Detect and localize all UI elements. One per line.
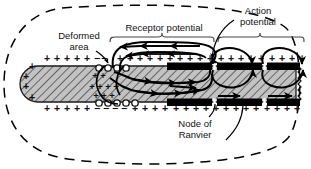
label-deformed-area-line1: Deformed [58, 30, 100, 41]
axon-body [20, 66, 296, 102]
label-receptor-potential: Receptor potential [118, 23, 210, 34]
svg-text:+: + [193, 102, 199, 114]
svg-text:+: + [74, 52, 80, 64]
svg-text:+: + [100, 70, 106, 81]
svg-text:+: + [44, 102, 50, 114]
svg-text:+: + [264, 102, 270, 114]
svg-text:+: + [74, 102, 80, 114]
svg-text:+: + [44, 52, 50, 64]
figure-canvas: +++ ++ −− +++ +++ +++ + +++ ++ +++ + +++… [0, 0, 311, 169]
svg-text:+: + [228, 52, 234, 64]
svg-text:+: + [64, 102, 70, 114]
label-action-potential: Action potential [232, 6, 284, 27]
svg-text:+: + [183, 102, 189, 114]
svg-text:+: + [109, 90, 115, 101]
label-node-of-ranvier: Node of Ranvier [168, 119, 222, 140]
label-node-of-ranvier-line1: Node of [178, 118, 211, 129]
svg-text:+: + [213, 102, 219, 114]
svg-text:+: + [284, 102, 290, 114]
svg-text:+: + [84, 102, 90, 114]
bracket-action-potential [218, 33, 304, 42]
label-node-of-ranvier-line2: Ranvier [179, 129, 212, 140]
svg-text:+: + [289, 52, 295, 64]
svg-text:+: + [223, 102, 229, 114]
svg-text:+: + [243, 102, 249, 114]
svg-text:+: + [274, 102, 280, 114]
svg-text:+: + [294, 102, 300, 114]
svg-text:+: + [203, 102, 209, 114]
svg-text:+: + [54, 52, 60, 64]
svg-text:+: + [29, 60, 35, 72]
label-action-potential-line2: potential [240, 16, 276, 27]
label-deformed-area: Deformed area [51, 31, 107, 52]
svg-text:+: + [152, 102, 158, 114]
svg-text:+: + [279, 52, 285, 64]
label-deformed-area-line2: area [69, 41, 88, 52]
svg-text:+: + [64, 52, 70, 64]
svg-text:+: + [218, 52, 224, 64]
svg-text:+: + [253, 102, 259, 114]
svg-text:+: + [54, 102, 60, 114]
svg-text:+: + [162, 102, 168, 114]
svg-text:+: + [238, 52, 244, 64]
svg-text:+: + [84, 52, 90, 64]
svg-text:+: + [173, 102, 179, 114]
label-action-potential-line1: Action [245, 5, 271, 16]
bracket-receptor-potential [110, 33, 214, 42]
svg-text:+: + [142, 102, 148, 114]
svg-text:+: + [29, 91, 35, 103]
svg-text:+: + [269, 52, 275, 64]
svg-text:+: + [233, 102, 239, 114]
